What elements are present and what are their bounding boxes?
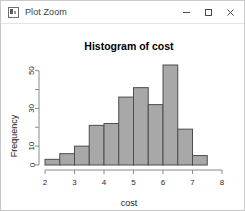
histogram-bar [89, 125, 104, 165]
x-tick-label: 6 [161, 178, 166, 187]
chart-title: Histogram of cost [84, 40, 174, 52]
histogram-bar [163, 65, 178, 165]
x-axis: 2345678 [43, 170, 225, 187]
histogram-bar [75, 146, 90, 165]
x-axis-label: cost [121, 198, 138, 208]
close-icon[interactable] [219, 1, 241, 23]
window-controls [175, 1, 244, 23]
maximize-icon[interactable] [197, 1, 219, 23]
histogram-bar [134, 88, 149, 165]
x-tick-label: 4 [102, 178, 107, 187]
histogram-bars [45, 65, 207, 165]
x-tick-label: 3 [72, 178, 77, 187]
histogram-bar [178, 129, 193, 165]
y-axis: 0103050 [28, 66, 40, 168]
histogram-svg: Histogram of cost Frequency cost 0103050… [1, 24, 244, 211]
y-tick-label: 0 [28, 162, 37, 167]
x-tick-label: 5 [131, 178, 136, 187]
histogram-bar [60, 154, 75, 165]
histogram-bar [148, 105, 163, 165]
x-tick-label: 2 [43, 178, 48, 187]
plot-zoom-window: Plot Zoom Histogram of cost Frequency co… [0, 0, 245, 211]
window-title: Plot Zoom [25, 7, 67, 17]
x-tick-label: 8 [220, 178, 225, 187]
window-titlebar[interactable]: Plot Zoom [1, 1, 244, 24]
histogram-bar [45, 159, 60, 165]
x-tick-label: 7 [190, 178, 195, 187]
plot-window-icon [8, 7, 19, 18]
y-axis-label: Frequency [9, 114, 19, 157]
histogram-bar [119, 97, 134, 165]
histogram-bar [104, 123, 119, 165]
histogram-plot-area: Histogram of cost Frequency cost 0103050… [1, 24, 244, 210]
histogram-bar [193, 156, 208, 165]
minimize-icon[interactable] [175, 1, 197, 23]
y-tick-label: 50 [28, 66, 37, 75]
y-tick-label: 10 [28, 141, 37, 150]
y-tick-label: 30 [28, 103, 37, 112]
